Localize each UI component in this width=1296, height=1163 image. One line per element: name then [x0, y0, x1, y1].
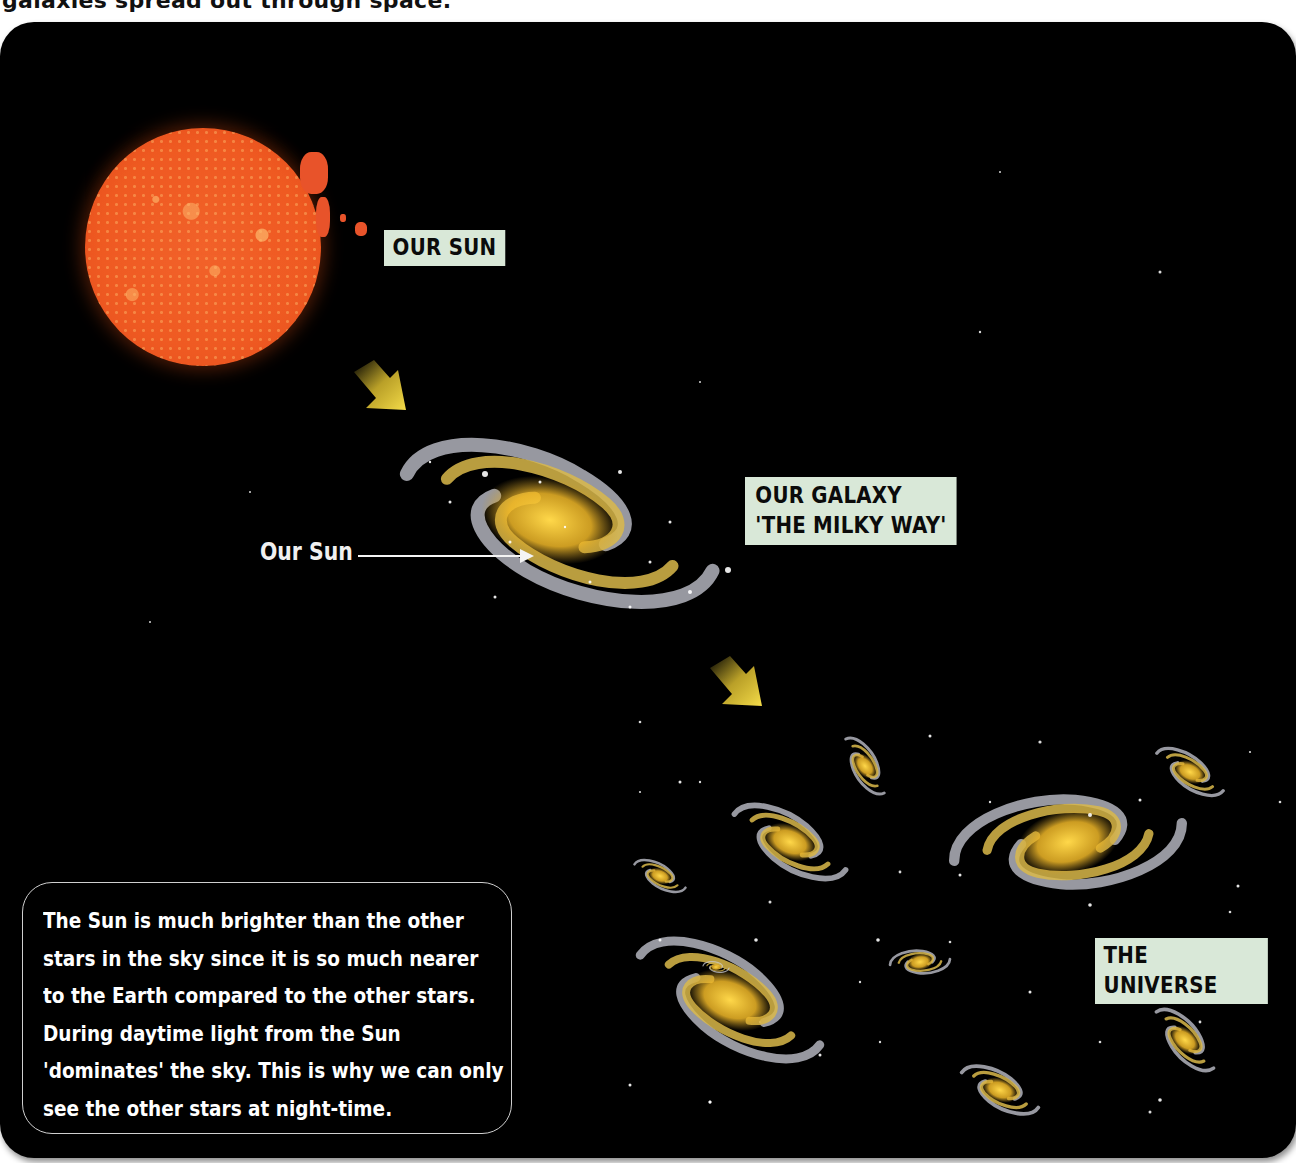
info-line: stars in the sky since it is so much nea…	[43, 941, 439, 979]
info-line: to the Earth compared to the other stars…	[43, 978, 439, 1016]
info-line: During daytime light from the Sun	[43, 1016, 439, 1054]
solar-flare	[300, 152, 328, 194]
info-line: The Sun is much brighter than the other	[43, 903, 439, 941]
solar-flare	[316, 197, 330, 237]
label-our-galaxy-line1: OUR GALAXY	[755, 481, 946, 511]
pointer-arrow-line	[358, 555, 526, 557]
milky-way-galaxy-image	[390, 432, 740, 632]
pointer-arrow-head-icon	[520, 549, 534, 563]
caption-text: galaxies spread out through space.	[2, 0, 451, 13]
label-our-galaxy: OUR GALAXY 'THE MILKY WAY'	[745, 477, 957, 545]
down-right-arrow-icon	[346, 360, 416, 420]
info-line: 'dominates' the sky. This is why we can …	[43, 1053, 439, 1091]
info-line: see the other stars at night-time.	[43, 1091, 439, 1129]
our-sun-pointer-label: Our Sun	[260, 538, 353, 566]
label-the-universe: THE UNIVERSE	[1095, 938, 1268, 1004]
label-our-sun: OUR SUN	[384, 230, 505, 266]
down-right-arrow-icon	[702, 656, 772, 716]
info-text-box: The Sun is much brighter than the other …	[22, 882, 512, 1134]
sun-image	[85, 128, 321, 366]
solar-flare	[355, 222, 367, 236]
illustration-panel: OUR SUN	[0, 22, 1296, 1158]
label-our-galaxy-line2: 'THE MILKY WAY'	[755, 511, 946, 541]
universe-galaxies-image	[620, 730, 1296, 1130]
solar-flare	[340, 214, 346, 222]
